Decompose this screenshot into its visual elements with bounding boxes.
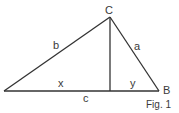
side-label-b: b <box>53 39 59 51</box>
segment-label-x: x <box>58 77 64 89</box>
side-b-line <box>4 17 110 91</box>
vertex-label-c: C <box>105 4 113 16</box>
segment-label-y: y <box>130 77 136 89</box>
vertex-label-b: B <box>163 84 170 96</box>
side-label-a: a <box>134 40 141 52</box>
figure-caption: Fig. 1 <box>146 99 171 110</box>
triangle-diagram: C B b a x y c Fig. 1 <box>0 0 179 113</box>
side-label-c: c <box>83 92 89 104</box>
